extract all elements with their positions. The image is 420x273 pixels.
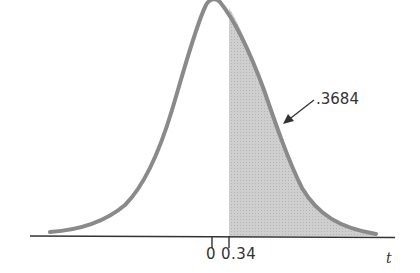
area-annotation: .3684 (316, 90, 359, 108)
shaded-tail-region (229, 8, 376, 236)
tick-label-zero: 0 (206, 245, 216, 263)
t-distribution-chart (0, 0, 420, 273)
axis-variable-label: t (386, 250, 392, 266)
tick-label-cut: 0.34 (221, 245, 256, 263)
density-curve (50, 0, 376, 234)
arrow-icon (283, 100, 314, 124)
